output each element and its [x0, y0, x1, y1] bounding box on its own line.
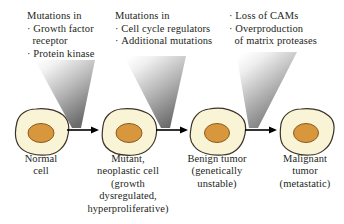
- nucleus: [28, 124, 54, 143]
- caption-line: hyperproliferative): [76, 203, 180, 215]
- caption-line: unstable): [172, 178, 262, 190]
- arrow-right-icon: [244, 124, 278, 136]
- caption-mutant-neoplastic-cell: Mutant, neoplastic cell (growth dysregul…: [76, 153, 180, 215]
- annotation-mutations-cell-cycle: Mutations in · Cell cycle regulators · A…: [115, 10, 212, 48]
- annotation-header: Mutations in: [27, 10, 95, 23]
- arrow-right-icon: [155, 124, 189, 136]
- caption-line: cell: [1, 165, 81, 177]
- annotation-bullet: · Growth factor: [27, 23, 95, 36]
- caption-line: dysregulated,: [76, 190, 180, 202]
- annotation-bullet: · Cell cycle regulators: [115, 23, 212, 36]
- cell-normal: [10, 106, 72, 158]
- caption-line: neoplastic cell: [76, 165, 180, 177]
- annotation-loss-of-cams: · Loss of CAMs · Overproduction of matri…: [229, 10, 317, 48]
- caption-benign-tumor: Benign tumor (genetically unstable): [172, 153, 262, 190]
- annotation-bullet-continuation: receptor: [27, 35, 95, 48]
- cell-benign-tumor: [186, 106, 248, 158]
- caption-line: (metastatic): [266, 178, 344, 190]
- annotation-bullet: · Additional mutations: [115, 35, 212, 48]
- nucleus: [294, 124, 319, 143]
- annotation-mutations-growth-factor: Mutations in · Growth factor receptor · …: [27, 10, 95, 60]
- annotation-header: Mutations in: [115, 10, 212, 23]
- cancer-progression-diagram: Mutations in · Growth factor receptor · …: [0, 0, 344, 224]
- annotation-bullet: · Overproduction: [229, 23, 317, 36]
- annotation-bullet: · Protein kinase: [27, 48, 95, 61]
- caption-line: Benign tumor: [172, 153, 262, 165]
- cell-mutant-neoplastic: [97, 106, 159, 158]
- caption-normal-cell: Normal cell: [1, 153, 81, 178]
- caption-line: tumor: [266, 165, 344, 177]
- caption-line: Mutant,: [76, 153, 180, 165]
- cell-malignant-tumor: [275, 106, 337, 158]
- annotation-bullet-continuation: of matrix proteases: [229, 35, 317, 48]
- caption-line: Normal: [1, 153, 81, 165]
- arrow-right-icon: [66, 124, 100, 136]
- caption-malignant-tumor: Malignant tumor (metastatic): [266, 153, 344, 190]
- caption-line: (genetically: [172, 165, 262, 177]
- annotation-bullet: · Loss of CAMs: [229, 10, 317, 23]
- nucleus: [205, 124, 230, 143]
- nucleus: [116, 124, 142, 143]
- caption-line: Malignant: [266, 153, 344, 165]
- caption-line: (growth: [76, 178, 180, 190]
